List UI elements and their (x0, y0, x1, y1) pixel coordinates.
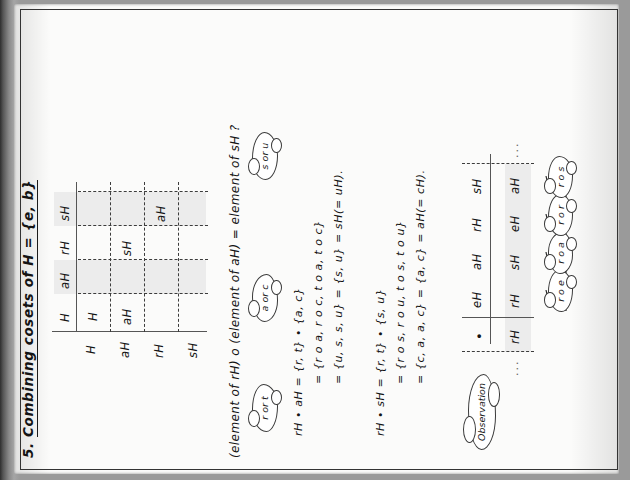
title-number: 5. (20, 442, 36, 458)
bottom-grid-vline-1 (462, 351, 534, 352)
top-col-header-3: sH (58, 206, 72, 221)
page-title: 5. Combining cosets of H = {e, b} (20, 180, 36, 458)
top-grid-vline-1 (78, 293, 208, 294)
rotated-content: 5. Combining cosets of H = {e, b} H aH r… (0, 0, 630, 480)
derivation1-line2: = {r o a, r o c, t o a, t o c} (312, 220, 325, 384)
top-cell-2-2: aH (154, 206, 168, 223)
top-col-header-2: rH (58, 241, 72, 255)
title-text: Combining cosets of H = {e, b} (20, 180, 38, 437)
cloud-observation: Observation (468, 374, 496, 450)
annotation-cloud-1: r o a (548, 232, 573, 274)
top-row-header-1: aH (118, 342, 132, 359)
screenshot-root: 5. Combining cosets of H = {e, b} H aH r… (0, 0, 630, 480)
top-cell-1-0: aH (120, 309, 134, 326)
top-cell-1-2: sH (120, 241, 134, 256)
top-row-header-3: sH (186, 343, 200, 358)
coset-multiplication-table: H aH rH sH H aH rH sH H aH sH aH (62, 140, 207, 330)
top-row-header-0: H (84, 345, 98, 354)
top-grid-hline-2 (144, 182, 145, 332)
bottom-col-header-0: eH (470, 291, 484, 308)
derivation1-line3: = {u, s, s, u} = {s, u} = sH(= uH). (332, 170, 345, 384)
derivation2-line3: = {c, a, a, c} = {a, c} = aH(= cH). (414, 169, 427, 384)
derivation1-line1: rH • aH = {r, t} • {a, c} (292, 287, 305, 436)
bottom-table-corner: • (472, 332, 487, 340)
bottom-col-header-1: aH (470, 254, 484, 271)
cloud-s-or-u: s or u (252, 132, 278, 180)
top-grid-hline-1 (110, 182, 111, 332)
top-cell-0-0: H (86, 312, 100, 321)
annotation-cloud-3: r o s (548, 156, 573, 198)
top-grid-vline-4 (78, 191, 208, 192)
bottom-col-header-2: rH (470, 218, 484, 232)
bottom-table-left-rule (462, 317, 534, 318)
bottom-cell-1: sH (508, 255, 522, 270)
top-grid-hline-3 (178, 182, 179, 332)
derivation2-line2: = {r o s, r o u, t o s, t o u} (394, 220, 407, 384)
bottom-cell-3: aH (508, 178, 522, 195)
top-col-header-0: H (58, 313, 72, 322)
bottom-row-ellipsis-left: ... (508, 360, 521, 377)
bottom-col-header-3: sH (470, 179, 484, 194)
bottom-cell-2: eH (508, 215, 522, 232)
bottom-row-ellipsis-right: ... (508, 142, 521, 159)
bottom-row-header: rH (508, 330, 522, 344)
bottom-table-header-rule (490, 154, 491, 344)
top-table-left-rule (52, 331, 207, 332)
top-grid-vline-2 (78, 259, 208, 260)
top-grid-vline-3 (78, 225, 208, 226)
bottom-grid-vline-2 (462, 163, 534, 164)
bottom-cell-0: rH (508, 294, 522, 308)
cloud-r-or-t: r or t (252, 384, 278, 432)
top-col-header-1: aH (58, 273, 72, 290)
question-line: (element of rH) o (element of aH) = elem… (228, 124, 242, 458)
annotation-cloud-0: r o e (548, 270, 573, 312)
cloud-a-or-c: a or c (252, 274, 278, 322)
annotation-cloud-2: r o r (548, 194, 573, 236)
top-row-header-2: rH (152, 344, 166, 358)
derivation2-line1: rH • sH = {r, t} • {s, u} (374, 289, 387, 436)
top-table-header-rule (76, 182, 77, 332)
